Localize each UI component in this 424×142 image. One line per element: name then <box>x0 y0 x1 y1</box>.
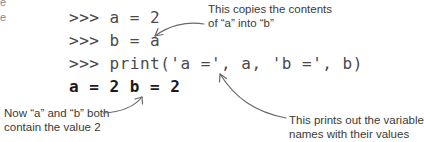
prompt: >>> <box>69 54 99 73</box>
annotation-both-line1: Now “a” and “b” both <box>4 106 99 120</box>
prompt: >>> <box>69 31 99 50</box>
annotation-copies-line2: of “a” into “b” <box>208 16 332 30</box>
code-text: print('a =', a, 'b =', b) <box>110 54 363 73</box>
arrow-copies-icon <box>155 23 204 36</box>
cropped-text-fragment: e <box>0 0 6 8</box>
code-text: b = a <box>110 31 161 50</box>
annotation-copies: This copies the contents of “a” into “b” <box>208 2 332 30</box>
output-text: a = 2 b = 2 <box>69 77 180 96</box>
annotation-copies-line1: This copies the contents <box>208 2 332 16</box>
code-line-1: >>> a = 2 <box>69 8 160 28</box>
code-line-2: >>> b = a <box>69 31 160 51</box>
annotation-prints: This prints out the variable names with … <box>289 113 424 141</box>
code-text: a = 2 <box>110 8 161 27</box>
annotation-prints-line2: names with their values <box>289 127 424 141</box>
arrow-prints-icon <box>220 74 286 118</box>
code-line-3: >>> print('a =', a, 'b =', b) <box>69 54 363 74</box>
annotation-prints-line1: This prints out the variable <box>289 113 424 127</box>
annotation-both: Now “a” and “b” both contain the value 2 <box>4 106 99 134</box>
prompt: >>> <box>69 8 99 27</box>
annotation-both-line2: contain the value 2 <box>4 120 99 134</box>
cropped-text-fragment: e <box>0 11 6 23</box>
code-output: a = 2 b = 2 <box>69 77 180 97</box>
